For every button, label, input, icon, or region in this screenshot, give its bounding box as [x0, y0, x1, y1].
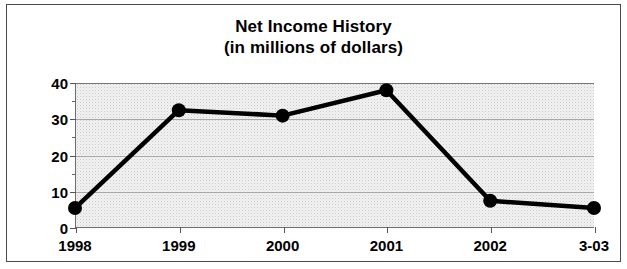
x-axis-label-3-03: 3-03 [579, 237, 609, 254]
data-point-2002 [483, 194, 497, 208]
x-axis-label-2002: 2002 [474, 237, 507, 254]
chart-title: Net Income History [7, 17, 620, 38]
x-axis-label-2000: 2000 [266, 237, 299, 254]
x-axis-label-1998: 1998 [58, 237, 91, 254]
y-axis-label-40: 40 [51, 75, 68, 92]
y-axis-label-20: 20 [51, 147, 68, 164]
y-axis-label-0: 0 [60, 220, 68, 237]
chart-subtitle: (in millions of dollars) [7, 38, 620, 59]
y-axis-label-10: 10 [51, 183, 68, 200]
y-axis-labels: 010203040 [35, 83, 68, 228]
data-point-2000 [276, 109, 290, 123]
x-axis-label-1999: 1999 [162, 237, 195, 254]
y-axis-label-30: 30 [51, 111, 68, 128]
chart-title-block: Net Income History (in millions of dolla… [7, 17, 620, 58]
figure-frame: Net Income History (in millions of dolla… [6, 4, 621, 262]
x-axis-labels: 199819992000200120023-03 [75, 237, 594, 261]
x-axis-label-2001: 2001 [370, 237, 403, 254]
x-tick-3-03 [595, 227, 596, 233]
net-income-series [75, 83, 594, 228]
data-point-1998 [68, 201, 82, 215]
data-point-1999 [172, 103, 186, 117]
data-point-2001 [379, 83, 393, 97]
data-point-3-03 [587, 201, 601, 215]
series-line [75, 90, 594, 208]
plot-area [75, 83, 594, 228]
chart-screenshot: Net Income History (in millions of dolla… [0, 0, 627, 269]
